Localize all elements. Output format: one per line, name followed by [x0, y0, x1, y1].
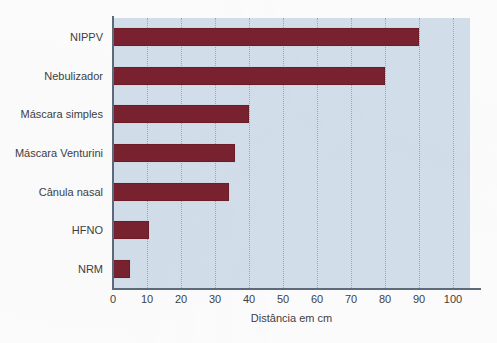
x-axis-tick-label: 0	[110, 293, 116, 305]
x-axis-tick-labels: 0102030405060708090100	[113, 293, 470, 309]
x-axis-tick-label: 70	[345, 293, 357, 305]
y-axis-label: Cânula nasal	[39, 185, 103, 199]
bar	[113, 28, 419, 46]
bar	[113, 67, 385, 85]
y-axis-line	[112, 16, 114, 289]
y-axis-label: HFNO	[72, 223, 103, 237]
bar-chart-figure: NIPPVNebulizadorMáscara simplesMáscara V…	[0, 0, 497, 343]
x-axis-tick-label: 90	[413, 293, 425, 305]
x-axis-tick-label: 10	[141, 293, 153, 305]
x-axis-tick-label: 50	[277, 293, 289, 305]
bar	[113, 144, 235, 162]
y-axis-label: Nebulizador	[44, 69, 103, 83]
x-axis-tick-label: 30	[209, 293, 221, 305]
x-axis-tick-label: 60	[311, 293, 323, 305]
plot-area	[113, 18, 470, 288]
y-axis-label: NRM	[78, 262, 103, 276]
x-axis-tick-label: 40	[243, 293, 255, 305]
x-axis-tick-label: 20	[175, 293, 187, 305]
y-axis-category-labels: NIPPVNebulizadorMáscara simplesMáscara V…	[0, 18, 108, 288]
x-axis-tick-label: 100	[444, 293, 462, 305]
bars-layer	[113, 18, 470, 288]
y-axis-label: NIPPV	[70, 30, 103, 44]
y-axis-label: Máscara Venturini	[15, 146, 103, 160]
y-axis-label: Máscara simples	[20, 107, 103, 121]
bar	[113, 221, 149, 239]
bar	[113, 105, 249, 123]
bar	[113, 260, 130, 278]
x-axis-line	[112, 288, 481, 290]
x-axis-tick-label: 80	[379, 293, 391, 305]
x-axis-title: Distância em cm	[113, 312, 470, 324]
bar	[113, 183, 229, 201]
